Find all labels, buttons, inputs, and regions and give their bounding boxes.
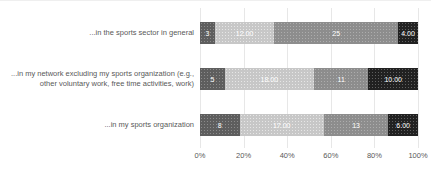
segment-value-label: 6.00 <box>396 122 410 129</box>
x-tick-label: 20% <box>236 151 251 160</box>
segment-value-label: 25 <box>332 30 340 37</box>
segment-value-label: 13 <box>352 122 360 129</box>
bar-segment-segment-2-light-gray: 18.00 <box>225 68 314 90</box>
bar-segment-segment-2-light-gray: 12.00 <box>215 22 274 44</box>
bar-row: 518.001110.00 <box>200 68 418 90</box>
bar-segment-segment-4-black: 6.00 <box>388 114 418 136</box>
x-tick-label: 0% <box>195 151 206 160</box>
x-tick-label: 40% <box>280 151 295 160</box>
bar-segment-segment-1-dark-gray: 5 <box>200 68 225 90</box>
segment-value-label: 4.00 <box>401 30 415 37</box>
segment-value-label: 3 <box>205 30 209 37</box>
bar-segment-segment-1-dark-gray: 3 <box>200 22 215 44</box>
category-label: ...in the sports sector in general <box>0 22 194 44</box>
segment-value-label: 5 <box>210 76 214 83</box>
x-tick-label: 60% <box>323 151 338 160</box>
segment-value-label: 8 <box>218 122 222 129</box>
category-label: ...in my sports organization <box>0 114 194 136</box>
segment-value-label: 17.00 <box>273 122 291 129</box>
segment-value-label: 11 <box>338 76 345 83</box>
bar-segment-segment-3-mid-gray: 25 <box>274 22 398 44</box>
segment-value-label: 10.00 <box>384 76 402 83</box>
chart-top-border <box>0 0 431 1</box>
bar-segment-segment-3-mid-gray: 13 <box>324 114 388 136</box>
bar-segment-segment-3-mid-gray: 11 <box>314 68 369 90</box>
bar-row: 312.00254.00 <box>200 22 418 44</box>
bar-segment-segment-2-light-gray: 17.00 <box>240 114 324 136</box>
segment-value-label: 18.00 <box>261 76 279 83</box>
stacked-bar-chart: ...in the sports sector in general...in … <box>0 0 431 174</box>
x-tick-label: 100% <box>408 151 427 160</box>
bar-segment-segment-4-black: 4.00 <box>398 22 418 44</box>
bar-segment-segment-4-black: 10.00 <box>368 68 418 90</box>
bar-segment-segment-1-dark-gray: 8 <box>200 114 240 136</box>
category-label: ...in my network excluding my sports org… <box>0 68 194 90</box>
gridline <box>418 8 419 148</box>
x-tick-label: 80% <box>367 151 382 160</box>
segment-value-label: 12.00 <box>236 30 254 37</box>
bar-row: 817.00136.00 <box>200 114 418 136</box>
